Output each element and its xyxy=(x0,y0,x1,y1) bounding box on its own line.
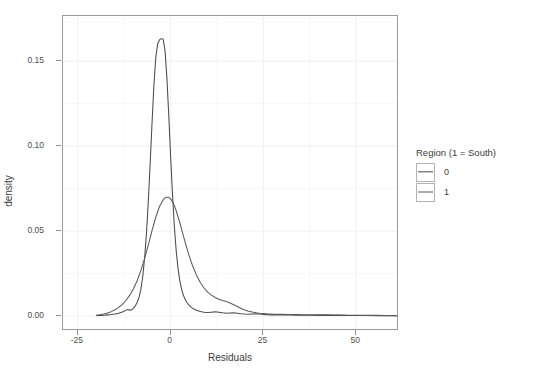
y-tick-label: 0.00 xyxy=(27,310,44,320)
chart-figure: 0.000.050.100.15 density -2502550 Residu… xyxy=(0,0,543,382)
gridlines xyxy=(63,16,397,329)
series-0 xyxy=(96,39,397,316)
x-tick-label: 25 xyxy=(258,335,267,345)
density-curves xyxy=(63,16,397,329)
series-paths xyxy=(96,39,397,316)
y-tick-mark xyxy=(56,230,61,231)
legend-item-label: 1 xyxy=(444,187,449,197)
x-axis-label: Residuals xyxy=(208,352,252,363)
legend-key-icon xyxy=(416,163,435,182)
x-tick-label: 0 xyxy=(167,335,172,345)
y-tick-mark xyxy=(56,145,61,146)
x-tick-label: -25 xyxy=(71,335,83,345)
legend-key-icon xyxy=(416,183,435,202)
y-tick-mark xyxy=(56,60,61,61)
legend: Region (1 = South) 0 1 xyxy=(416,147,536,202)
x-tick-mark xyxy=(170,330,171,335)
legend-item-label: 0 xyxy=(444,167,449,177)
x-tick-label: 50 xyxy=(350,335,359,345)
legend-title: Region (1 = South) xyxy=(416,147,536,158)
legend-item-0[interactable]: 0 xyxy=(416,162,536,182)
y-tick-label: 0.15 xyxy=(27,55,44,65)
x-tick-mark xyxy=(355,330,356,335)
y-axis-label: density xyxy=(3,175,14,207)
y-tick-label: 0.05 xyxy=(27,225,44,235)
x-tick-mark xyxy=(77,330,78,335)
plot-panel xyxy=(62,15,398,330)
y-tick-mark xyxy=(56,315,61,316)
legend-item-1[interactable]: 1 xyxy=(416,182,536,202)
x-tick-mark xyxy=(262,330,263,335)
y-tick-label: 0.10 xyxy=(27,140,44,150)
series-1 xyxy=(96,197,397,316)
